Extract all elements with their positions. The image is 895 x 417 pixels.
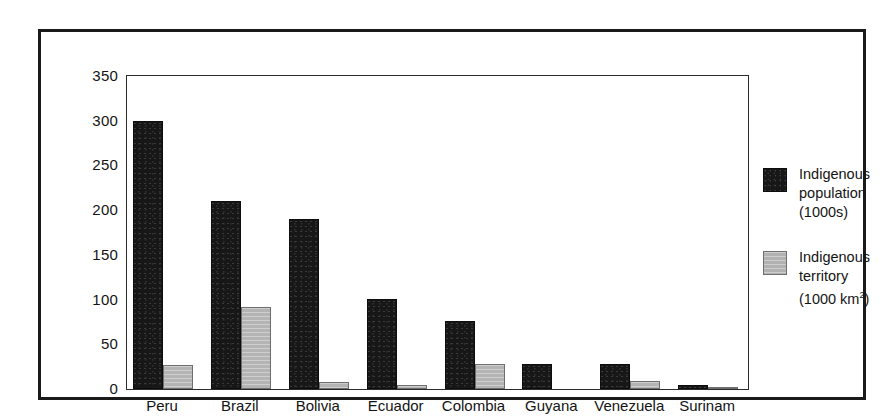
y-tick-label: 50 (101, 335, 118, 352)
x-tick-label: Guyana (525, 397, 578, 414)
y-tick-label: 0 (109, 380, 118, 397)
bar-population (600, 364, 630, 389)
bar-population (133, 121, 163, 389)
bar-population (445, 321, 475, 389)
legend-label-units: (1000 km2) (799, 286, 895, 309)
legend-label: Indigenouspopulation(1000s) (799, 165, 895, 222)
y-tick-label: 250 (92, 156, 118, 173)
x-tick-label: Venezuela (594, 397, 664, 414)
bar-group (672, 76, 750, 389)
legend-label: Indigenousterritory(1000 km2) (799, 248, 895, 309)
legend-label-line1: Indigenous (799, 165, 895, 184)
bar-group (594, 76, 672, 389)
legend-entry: Indigenouspopulation(1000s) (763, 165, 895, 222)
legend-label-line1: Indigenous (799, 248, 895, 267)
legend-unit-superscript: 2 (859, 290, 864, 300)
bar-territory (319, 382, 349, 389)
plot-area (126, 75, 749, 390)
x-tick-label: Brazil (221, 397, 259, 414)
y-tick-label: 300 (92, 111, 118, 128)
bar-territory (163, 365, 193, 389)
x-axis: PeruBrazilBoliviaEcuadorColombiaGuyanaVe… (126, 393, 749, 417)
bar-territory (708, 387, 738, 389)
bar-territory (475, 364, 505, 389)
legend-label-line2: population (799, 184, 895, 203)
y-axis: 050100150200250300350 (79, 61, 126, 417)
legend-label-units: (1000s) (799, 203, 895, 222)
bar-group (361, 76, 439, 389)
chart-figure: 050100150200250300350 PeruBrazilBoliviaE… (0, 0, 895, 417)
bar-territory (397, 385, 427, 389)
legend-entry: Indigenousterritory(1000 km2) (763, 248, 895, 309)
bar-group (127, 76, 205, 389)
x-tick-label: Surinam (679, 397, 735, 414)
bar-series-container (127, 76, 750, 389)
bar-population (211, 201, 241, 389)
figure-outer-frame: 050100150200250300350 PeruBrazilBoliviaE… (38, 29, 866, 400)
x-tick-label: Colombia (442, 397, 505, 414)
bar-population (289, 219, 319, 389)
bar-group (205, 76, 283, 389)
bar-territory (630, 381, 660, 389)
x-tick-label: Peru (146, 397, 178, 414)
x-tick-label: Bolivia (296, 397, 340, 414)
bar-territory (241, 307, 271, 389)
bar-population (678, 385, 708, 389)
bar-group (439, 76, 517, 389)
y-tick-label: 350 (92, 67, 118, 84)
legend-label-line2: territory (799, 267, 895, 286)
gray-swatch (763, 251, 787, 275)
y-tick-label: 200 (92, 201, 118, 218)
y-tick-label: 100 (92, 290, 118, 307)
bar-population (367, 299, 397, 389)
x-tick-label: Ecuador (368, 397, 424, 414)
bar-population (522, 364, 552, 389)
bar-group (516, 76, 594, 389)
bar-group (283, 76, 361, 389)
black-swatch (763, 168, 787, 192)
y-tick-label: 150 (92, 245, 118, 262)
chart-legend: Indigenouspopulation(1000s)Indigenouster… (763, 165, 895, 335)
